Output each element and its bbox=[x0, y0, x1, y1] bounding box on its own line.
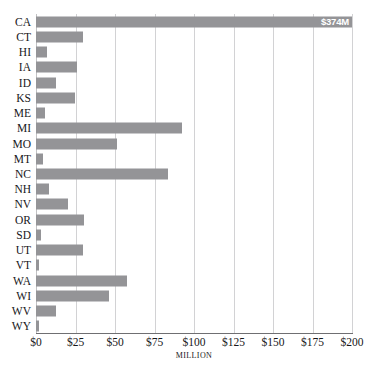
bar-hi bbox=[36, 47, 47, 58]
y-axis-label-ia: IA bbox=[19, 61, 31, 73]
bar-ca: $374M bbox=[36, 16, 352, 27]
y-axis-label-mt: MT bbox=[14, 153, 31, 165]
bar-row: ID bbox=[36, 75, 352, 90]
bar-sd bbox=[36, 229, 41, 240]
bar-row: WI bbox=[36, 288, 352, 303]
clipped-header-text bbox=[0, 0, 390, 9]
bar-ks bbox=[36, 92, 75, 103]
bar-row: MT bbox=[36, 151, 352, 166]
bar-row: VT bbox=[36, 258, 352, 273]
bar-row: CT bbox=[36, 29, 352, 44]
bar-row: WY bbox=[36, 319, 352, 334]
y-axis-label-wi: WI bbox=[16, 290, 31, 302]
x-tick-label-175: $175 bbox=[301, 336, 324, 349]
y-axis-label-ut: UT bbox=[16, 244, 31, 256]
bar-row: CA$374M bbox=[36, 14, 352, 29]
y-axis-label-me: ME bbox=[14, 107, 31, 119]
y-axis-label-wa: WA bbox=[13, 275, 31, 287]
y-axis-label-vt: VT bbox=[16, 259, 31, 271]
bar-id bbox=[36, 77, 56, 88]
bar-row: UT bbox=[36, 243, 352, 258]
plot-area: CA$374MCTHIIAIDKSMEMIMOMTNCNHNVORSDUTVTW… bbox=[36, 14, 352, 334]
x-tick-label-25: $25 bbox=[67, 336, 84, 349]
bar-mi bbox=[36, 123, 182, 134]
bar-wy bbox=[36, 321, 39, 332]
gridline-200 bbox=[352, 14, 353, 334]
bar-row: WV bbox=[36, 304, 352, 319]
bar-row: KS bbox=[36, 90, 352, 105]
y-axis-label-wy: WY bbox=[12, 320, 31, 332]
bar-row: NC bbox=[36, 166, 352, 181]
bar-rows: CA$374MCTHIIAIDKSMEMIMOMTNCNHNVORSDUTVTW… bbox=[36, 14, 352, 334]
x-tick-label-200: $200 bbox=[341, 336, 364, 349]
y-axis-label-sd: SD bbox=[16, 229, 31, 241]
bar-nv bbox=[36, 199, 68, 210]
bar-ut bbox=[36, 245, 83, 256]
y-axis-label-ks: KS bbox=[16, 92, 31, 104]
bar-row: HI bbox=[36, 44, 352, 59]
bar-ct bbox=[36, 31, 83, 42]
bar-row: NH bbox=[36, 182, 352, 197]
x-tick-label-125: $125 bbox=[222, 336, 245, 349]
x-axis-line bbox=[36, 333, 353, 334]
x-tick-label-50: $50 bbox=[106, 336, 123, 349]
bar-wi bbox=[36, 290, 109, 301]
y-axis-label-hi: HI bbox=[19, 46, 31, 58]
x-tick-label-75: $75 bbox=[146, 336, 163, 349]
bar-row: ME bbox=[36, 105, 352, 120]
y-axis-label-mi: MI bbox=[17, 122, 31, 134]
bar-nc bbox=[36, 168, 168, 179]
bar-wv bbox=[36, 306, 56, 317]
y-axis-label-ca: CA bbox=[15, 16, 31, 28]
y-axis-label-mo: MO bbox=[12, 138, 31, 150]
y-axis-label-ct: CT bbox=[16, 31, 31, 43]
bar-value-label-ca: $374M bbox=[321, 16, 349, 27]
y-axis-label-nv: NV bbox=[14, 198, 31, 210]
bar-ia bbox=[36, 62, 77, 73]
bar-row: IA bbox=[36, 60, 352, 75]
y-axis-label-id: ID bbox=[19, 77, 31, 89]
x-tick-label-0: $0 bbox=[30, 336, 42, 349]
y-axis-label-nh: NH bbox=[14, 183, 31, 195]
x-axis-ticks: $0$25$50$75$100$125$150$175$200 bbox=[0, 336, 390, 352]
x-axis-title: MILLION bbox=[36, 351, 352, 360]
bar-mo bbox=[36, 138, 117, 149]
bar-nh bbox=[36, 184, 49, 195]
bar-row: MO bbox=[36, 136, 352, 151]
x-tick-label-150: $150 bbox=[262, 336, 285, 349]
bar-chart: CA$374MCTHIIAIDKSMEMIMOMTNCNHNVORSDUTVTW… bbox=[0, 0, 390, 365]
bar-row: MI bbox=[36, 121, 352, 136]
y-axis-label-or: OR bbox=[15, 214, 31, 226]
bar-mt bbox=[36, 153, 43, 164]
y-axis-label-nc: NC bbox=[15, 168, 31, 180]
bar-or bbox=[36, 214, 84, 225]
x-tick-label-100: $100 bbox=[183, 336, 206, 349]
bar-row: WA bbox=[36, 273, 352, 288]
bar-row: OR bbox=[36, 212, 352, 227]
y-axis-label-wv: WV bbox=[12, 305, 31, 317]
bar-row: SD bbox=[36, 227, 352, 242]
bar-row: NV bbox=[36, 197, 352, 212]
bar-wa bbox=[36, 275, 127, 286]
bar-vt bbox=[36, 260, 39, 271]
bar-me bbox=[36, 108, 45, 119]
